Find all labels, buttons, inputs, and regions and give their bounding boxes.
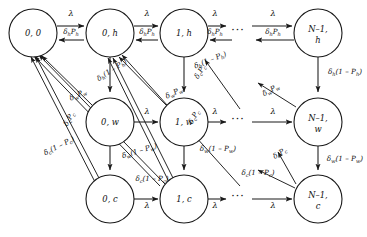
state-node: 0, w (86, 98, 134, 146)
edge-rate-label: λ (211, 8, 217, 18)
state-node: N–1,w (294, 98, 342, 146)
ellipsis: ··· (231, 190, 245, 203)
edge-dotsw-to-1h-long (205, 60, 240, 109)
edge-rate-label: δc(1 – Pc) (241, 168, 274, 178)
state-node-label: 1, h (176, 28, 192, 38)
edge-rate-label: λ (269, 106, 275, 116)
nodes-layer: 0, 00, h1, hN–1,h0, w1, wN–1,w0, c1, cN–… (9, 9, 342, 223)
edge-rate-label: δc(1 – Pc) (42, 134, 76, 158)
edge-rate-label: λ (143, 8, 149, 18)
state-node-label: 0, 0 (25, 28, 42, 38)
state-node: N–1,h (294, 9, 342, 57)
edge-rate-label: δhPh (207, 27, 223, 37)
edge-rate-label: λ (269, 200, 275, 210)
markov-chain-diagram: 0, 00, h1, hN–1,h0, w1, wN–1,w0, c1, cN–… (0, 0, 367, 237)
state-node: 1, w (160, 98, 208, 146)
state-node-label-line2: w (314, 124, 321, 134)
edge-rate-label: λ (143, 106, 149, 116)
edge-rate-label: δhPh (139, 27, 155, 37)
state-node: 0, h (86, 9, 134, 57)
edge-rate-label: δc(1 – Pc) (135, 174, 168, 184)
edge-rate-label: λ (211, 106, 217, 116)
ellipsis: ··· (231, 113, 245, 126)
state-node-label: N–1, (307, 24, 328, 34)
edge-rate-label: λ (67, 8, 73, 18)
state-node-label: N–1, (307, 113, 328, 123)
edge-0w-to-00-deltaw (42, 56, 93, 106)
ellipsis: ··· (231, 24, 245, 37)
state-node-label-line2: h (315, 35, 320, 45)
edge-rate-label: λ (269, 8, 275, 18)
state-node-label: 0, w (101, 117, 119, 127)
figure-canvas: 0, 00, h1, hN–1,h0, w1, wN–1,w0, c1, cN–… (0, 0, 367, 237)
edge-rate-label: δcPc (271, 145, 289, 161)
edge-rate-label: δwPw (68, 87, 89, 104)
edge-rate-label: δhPh (63, 27, 79, 37)
state-node-label: 0, h (102, 28, 118, 38)
state-node: 1, h (160, 9, 208, 57)
edge-rate-label: δh(1 – Ph) (328, 67, 362, 77)
edge-rate-label: δcPc (61, 110, 77, 128)
state-node: 0, 0 (9, 9, 57, 57)
state-node-label: N–1, (307, 190, 328, 200)
state-node: 0, c (86, 175, 134, 223)
state-node-label-line2: c (316, 201, 321, 211)
edge-rate-label: δhPh (265, 27, 281, 37)
edge-rate-label: λ (143, 200, 149, 210)
state-node: N–1,c (294, 175, 342, 223)
state-node-label: 0, c (102, 194, 118, 204)
edge-rate-label: λ (211, 200, 217, 210)
edge-rate-label: δw(1 – Pw) (200, 144, 236, 154)
edge-rate-label: δw(1 – Pw) (327, 154, 363, 164)
state-node-label: 1, c (176, 194, 192, 204)
